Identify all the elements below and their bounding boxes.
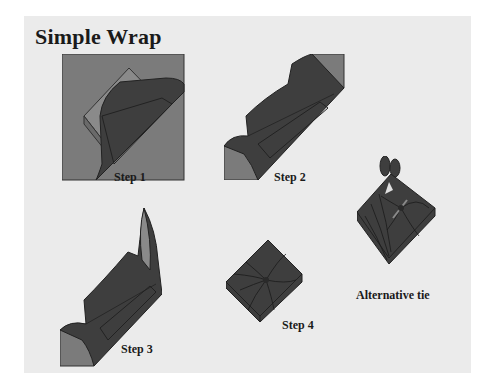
step-1-illustration [62,54,186,181]
step-4-caption: Step 4 [282,318,314,333]
alternative-tie-illustration [357,156,437,264]
step-4-illustration [226,240,304,322]
step-3-caption: Step 3 [121,342,153,357]
page-title: Simple Wrap [35,24,162,50]
step-2-caption: Step 2 [274,170,306,185]
step-2-illustration [224,54,346,180]
alternative-tie-caption: Alternative tie [356,288,430,303]
step-1-caption: Step 1 [114,170,146,185]
